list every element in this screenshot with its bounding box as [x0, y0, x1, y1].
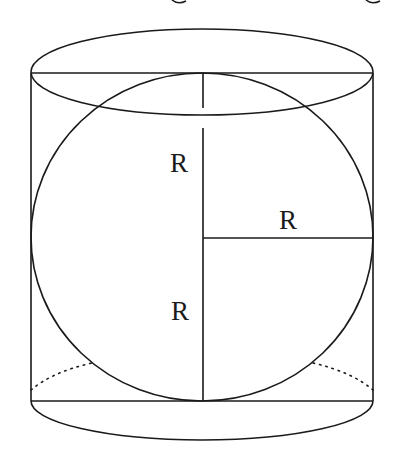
label-radius-vertical-upper: R — [170, 148, 188, 178]
cylinder-bottom-front-arc — [31, 401, 373, 440]
cropped-text-descender — [366, 0, 380, 3]
cylinder-top-ellipse — [31, 29, 373, 115]
label-radius-vertical-lower: R — [171, 296, 189, 326]
label-radius-horizontal: R — [279, 205, 297, 235]
cylinder-sphere-diagram: R R R — [0, 0, 395, 452]
cylinder-bottom-back-arc-right — [313, 363, 373, 390]
cylinder-bottom-back-arc-left — [31, 363, 92, 390]
cropped-text-descender — [172, 0, 186, 3]
sphere-outline — [31, 73, 373, 401]
